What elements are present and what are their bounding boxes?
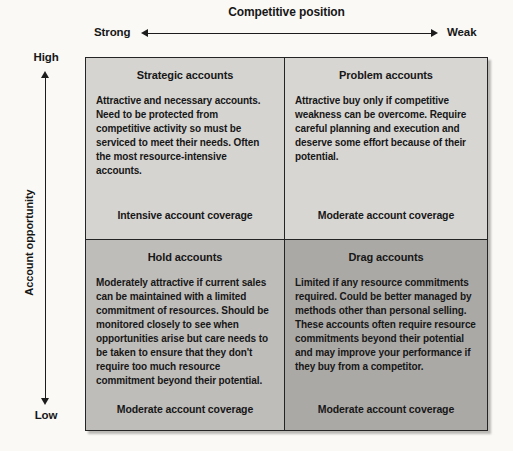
account-matrix: Strategic accounts Attractive and necess… bbox=[85, 57, 488, 431]
quadrant-hold-accounts: Hold accounts Moderately attractive if c… bbox=[86, 240, 285, 430]
quadrant-coverage-label: Moderate account coverage bbox=[96, 403, 274, 415]
quadrant-title: Hold accounts bbox=[96, 251, 274, 263]
quadrant-description: Attractive and necessary accounts. Need … bbox=[96, 94, 274, 178]
arrow-right-icon bbox=[431, 29, 438, 37]
y-axis-title: Account opportunity bbox=[23, 143, 38, 343]
y-axis-arrow bbox=[40, 71, 51, 405]
y-axis-high-label: High bbox=[26, 51, 66, 63]
y-axis-low-label: Low bbox=[26, 409, 66, 421]
quadrant-description: Attractive buy only if competitive weakn… bbox=[295, 94, 477, 164]
quadrant-problem-accounts: Problem accounts Attractive buy only if … bbox=[285, 58, 487, 240]
quadrant-coverage-label: Moderate account coverage bbox=[295, 403, 477, 415]
quadrant-coverage-label: Intensive account coverage bbox=[96, 209, 274, 221]
quadrant-title: Drag accounts bbox=[295, 251, 477, 263]
quadrant-title: Problem accounts bbox=[295, 69, 477, 81]
arrow-shaft bbox=[45, 77, 47, 399]
arrow-down-icon bbox=[41, 398, 49, 405]
quadrant-description: Limited if any resource commitments requ… bbox=[295, 276, 477, 374]
x-axis-title: Competitive position bbox=[85, 5, 488, 19]
quadrant-description: Moderately attractive if current sales c… bbox=[96, 276, 274, 388]
quadrant-title: Strategic accounts bbox=[96, 69, 274, 81]
quadrant-strategic-accounts: Strategic accounts Attractive and necess… bbox=[86, 58, 285, 240]
x-axis-arrow bbox=[141, 28, 438, 39]
quadrant-coverage-label: Moderate account coverage bbox=[295, 209, 477, 221]
quadrant-drag-accounts: Drag accounts Limited if any resource co… bbox=[285, 240, 487, 430]
arrow-shaft bbox=[147, 33, 432, 35]
x-axis-strong-label: Strong bbox=[94, 26, 130, 38]
x-axis-weak-label: Weak bbox=[447, 26, 476, 38]
